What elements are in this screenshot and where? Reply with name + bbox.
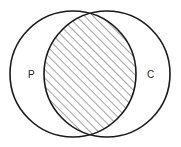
venn-diagram: P C [0,0,181,147]
set-c-label: C [147,69,154,80]
set-p-label: P [28,69,35,80]
